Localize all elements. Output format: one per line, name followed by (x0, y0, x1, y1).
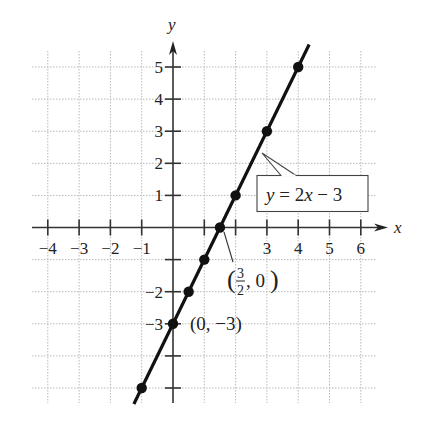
data-point (262, 126, 272, 136)
data-point (168, 319, 178, 329)
x-axis-label: x (393, 218, 402, 237)
y-tick-label: 3 (155, 122, 164, 141)
y-tick-label: −3 (145, 315, 163, 334)
y-axis-label: y (166, 15, 176, 34)
data-point (215, 222, 225, 232)
data-point (230, 190, 240, 200)
x-intercept-denominator: 2 (237, 283, 244, 298)
y-tick-label: −2 (145, 283, 163, 302)
x-intercept-close-paren: ) (270, 265, 279, 294)
data-point (183, 287, 193, 297)
data-point (199, 254, 209, 264)
x-tick-label: 5 (325, 239, 334, 258)
x-tick-label: −4 (39, 239, 58, 258)
y-tick-label: 4 (155, 90, 164, 109)
x-intercept-numerator: 3 (237, 266, 244, 281)
y-tick-label: 5 (155, 58, 164, 77)
y-tick-label: 1 (155, 186, 164, 205)
axes (32, 41, 388, 403)
x-tick-label: −2 (101, 239, 119, 258)
x-intercept-open-paren: ( (227, 265, 236, 294)
y-intercept-label: (0, −3) (190, 313, 242, 335)
data-point (137, 383, 147, 393)
equation-label: y = 2x − 3 (264, 184, 342, 205)
leader-line (224, 232, 233, 262)
x-tick-label: 6 (357, 239, 366, 258)
x-intercept-rest: , 0 (246, 270, 265, 291)
x-tick-label: −1 (133, 239, 151, 258)
equation-callout: y = 2x − 3 (257, 153, 368, 212)
y-tick-label: 2 (155, 154, 164, 173)
data-point (293, 62, 303, 72)
x-tick-label: 3 (263, 239, 272, 258)
x-tick-label: 4 (294, 239, 303, 258)
chart-canvas: −4−3−2−1345654321−2−3 x y y = 2x − 3 ( 3… (0, 0, 425, 422)
x-tick-label: −3 (70, 239, 88, 258)
